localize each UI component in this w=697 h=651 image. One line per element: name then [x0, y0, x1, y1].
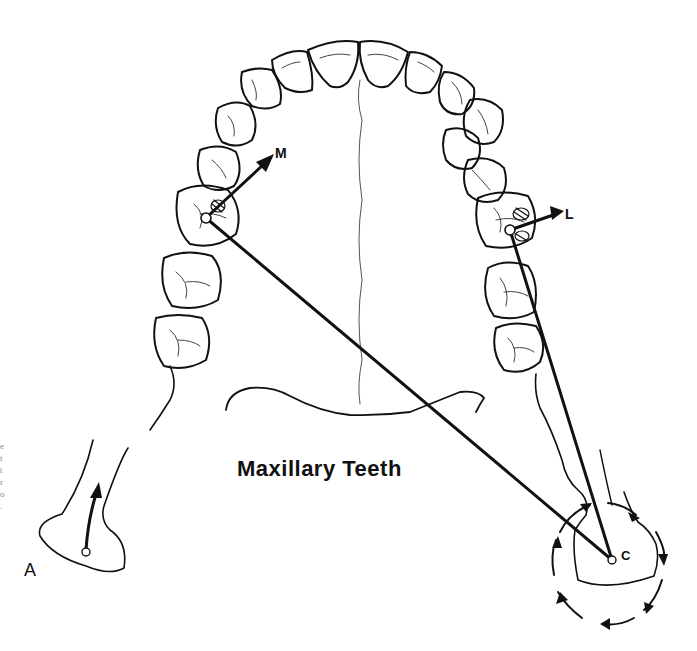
- edge-char: o: [0, 488, 8, 500]
- label-A: A: [24, 560, 36, 581]
- right-ramus-inner: [600, 450, 612, 505]
- hatched-contact-areas: [211, 200, 529, 241]
- tooth-canine-right: [439, 72, 475, 114]
- label-L: L: [565, 206, 574, 222]
- tooth-premolar-2-left: [198, 146, 240, 190]
- right-jaw-outline: [536, 374, 658, 585]
- point-A: [82, 548, 90, 556]
- tooth-lateral-incisor-right: [406, 52, 443, 93]
- tooth-central-incisor-left: [308, 41, 358, 87]
- cropped-edge-text: e t t r o .: [0, 440, 8, 512]
- edge-char: e: [0, 440, 8, 452]
- edge-char: r: [0, 476, 8, 488]
- tooth-canine-left: [241, 68, 281, 108]
- label-M: M: [275, 145, 287, 161]
- point-L-origin: [505, 225, 515, 235]
- edge-char: t: [0, 452, 8, 464]
- midline-suture: [358, 80, 362, 404]
- maxillary-teeth-diagram: [0, 0, 697, 651]
- point-C: [608, 556, 616, 564]
- tooth-central-incisor-right: [360, 41, 408, 87]
- tooth-lateral-incisor-left: [272, 51, 312, 92]
- point-M-origin: [201, 213, 211, 223]
- rotation-arrows-around-C: [552, 503, 668, 630]
- arrow-L: [510, 214, 556, 230]
- tooth-molar-3-left: [154, 315, 209, 368]
- arrow-A: [86, 494, 96, 550]
- edge-char: t: [0, 464, 8, 476]
- figure-title: Maxillary Teeth: [237, 456, 402, 482]
- teeth-arch: [154, 41, 543, 372]
- edge-char: .: [0, 500, 8, 512]
- line-L-to-C: [510, 230, 612, 560]
- arrow-L-head-icon: [550, 206, 564, 220]
- tooth-premolar-2-right: [443, 128, 480, 169]
- left-jaw-outline: [150, 366, 174, 430]
- label-C: C: [621, 548, 630, 563]
- tooth-molar-2-left: [162, 252, 221, 308]
- tooth-premolar-1-left: [216, 102, 256, 145]
- palate-border: [226, 388, 484, 416]
- arrow-A-head-icon: [90, 482, 102, 498]
